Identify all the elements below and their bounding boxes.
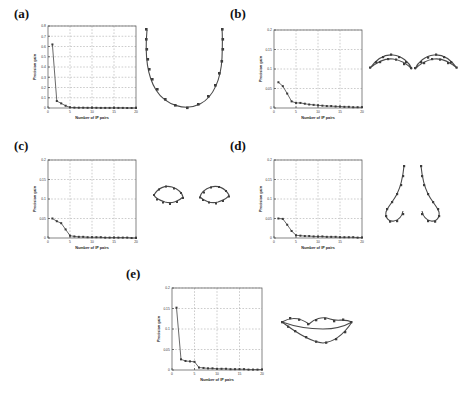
panel-e-label: (e) (126, 266, 140, 282)
eyebrows-icon (368, 48, 459, 88)
svg-text:0.05: 0.05 (265, 87, 272, 91)
svg-text:5: 5 (194, 372, 196, 376)
svg-text:0.1: 0.1 (267, 197, 272, 201)
svg-text:0.05: 0.05 (265, 217, 272, 221)
panel-b-plot: 00.050.10.150.205101520Number of IP pair… (252, 24, 367, 124)
svg-text:0.05: 0.05 (163, 348, 170, 352)
svg-text:15: 15 (338, 110, 342, 114)
nose-icon (380, 162, 450, 242)
svg-text:20: 20 (360, 110, 364, 114)
svg-text:Number of IP pairs: Number of IP pairs (200, 378, 234, 382)
svg-text:0: 0 (44, 106, 46, 110)
svg-text:Precision gain: Precision gain (259, 185, 263, 212)
svg-text:5: 5 (295, 240, 297, 244)
svg-text:0: 0 (171, 372, 173, 376)
panel-d-chart: 00.050.10.150.205101520Number of IP pair… (252, 154, 367, 254)
svg-text:0.1: 0.1 (267, 67, 272, 71)
panel-c-plot: 00.050.10.150.205101520Number of IP pair… (26, 154, 141, 254)
svg-text:Precision gain: Precision gain (259, 55, 263, 82)
svg-text:0.7: 0.7 (41, 35, 46, 39)
panel-e-plot: 00.050.10.150.205101520Number of IP pair… (148, 282, 268, 387)
panel-d-plot: 00.050.10.150.205101520Number of IP pair… (252, 154, 367, 254)
svg-text:15: 15 (112, 110, 116, 114)
panel-b: (b) 00.050.10.150.205101520Number of IP … (228, 0, 459, 135)
svg-text:0.3: 0.3 (41, 76, 46, 80)
panel-b-chart: 00.050.10.150.205101520Number of IP pair… (252, 24, 367, 124)
mouth-icon (278, 310, 368, 360)
svg-text:0.2: 0.2 (267, 28, 272, 32)
svg-text:5: 5 (295, 110, 297, 114)
svg-text:0.6: 0.6 (41, 45, 46, 49)
panel-e: (e) 00.050.10.150.205101520Number of IP … (100, 262, 400, 398)
panel-c-chart: 00.050.10.150.205101520Number of IP pair… (26, 154, 141, 254)
svg-text:0.1: 0.1 (165, 327, 170, 331)
svg-text:15: 15 (338, 240, 342, 244)
svg-text:20: 20 (260, 372, 264, 376)
svg-text:Precision gain: Precision gain (33, 185, 37, 212)
svg-text:10: 10 (316, 240, 320, 244)
svg-text:0: 0 (168, 368, 170, 372)
svg-text:0: 0 (47, 110, 49, 114)
panel-a: (a) 00.10.20.30.40.50.60.70.805101520Num… (0, 0, 230, 135)
svg-text:0: 0 (270, 106, 272, 110)
svg-text:Precision gain: Precision gain (33, 53, 37, 80)
svg-text:15: 15 (238, 372, 242, 376)
panel-a-chart: 00.10.20.30.40.50.60.70.805101520Number … (26, 20, 141, 125)
svg-text:15: 15 (112, 240, 116, 244)
eyes-icon (150, 179, 234, 217)
svg-text:Number of IP pairs: Number of IP pairs (301, 246, 335, 250)
svg-text:20: 20 (134, 110, 138, 114)
panel-e-shape-mouth (278, 310, 368, 360)
svg-text:0.2: 0.2 (41, 158, 46, 162)
svg-text:0.1: 0.1 (41, 96, 46, 100)
panel-d: (d) 00.050.10.150.205101520Number of IP … (228, 134, 459, 262)
svg-text:10: 10 (90, 110, 94, 114)
panel-a-shape-face-contour (142, 18, 230, 118)
svg-text:Precision gain: Precision gain (157, 315, 161, 342)
svg-text:0.15: 0.15 (265, 178, 272, 182)
svg-text:0: 0 (273, 240, 275, 244)
svg-text:0.05: 0.05 (39, 217, 46, 221)
panel-c-label: (c) (14, 138, 28, 154)
svg-text:0.4: 0.4 (41, 65, 46, 69)
face-contour-jawline-icon (142, 18, 230, 118)
svg-text:20: 20 (360, 240, 364, 244)
svg-text:Number of IP pairs: Number of IP pairs (75, 246, 109, 250)
svg-text:Number of IP pairs: Number of IP pairs (301, 116, 335, 120)
panel-b-shape-eyebrows (368, 48, 459, 88)
svg-text:10: 10 (215, 372, 219, 376)
svg-text:0.8: 0.8 (41, 24, 46, 28)
svg-text:0: 0 (270, 236, 272, 240)
svg-text:0.2: 0.2 (41, 86, 46, 90)
svg-text:10: 10 (316, 110, 320, 114)
svg-text:10: 10 (90, 240, 94, 244)
panel-d-label: (d) (230, 138, 246, 154)
svg-text:0: 0 (47, 240, 49, 244)
svg-text:0.15: 0.15 (265, 48, 272, 52)
svg-text:0.2: 0.2 (165, 286, 170, 290)
svg-text:0: 0 (273, 110, 275, 114)
svg-text:0.15: 0.15 (39, 178, 46, 182)
svg-text:5: 5 (69, 110, 71, 114)
svg-text:20: 20 (134, 240, 138, 244)
panel-a-plot: 00.10.20.30.40.50.60.70.805101520Number … (26, 20, 141, 125)
panel-c-shape-eyes (150, 179, 234, 217)
panel-b-label: (b) (230, 6, 246, 22)
svg-text:0.1: 0.1 (41, 197, 46, 201)
svg-text:Number of IP pairs: Number of IP pairs (75, 116, 109, 120)
svg-text:0.5: 0.5 (41, 55, 46, 59)
panel-d-shape-nose (380, 162, 450, 242)
svg-text:0.2: 0.2 (267, 158, 272, 162)
panel-e-chart: 00.050.10.150.205101520Number of IP pair… (148, 282, 268, 387)
svg-text:0.15: 0.15 (163, 307, 170, 311)
svg-text:5: 5 (69, 240, 71, 244)
svg-text:0: 0 (44, 236, 46, 240)
panel-c: (c) 00.050.10.150.205101520Number of IP … (0, 134, 230, 262)
